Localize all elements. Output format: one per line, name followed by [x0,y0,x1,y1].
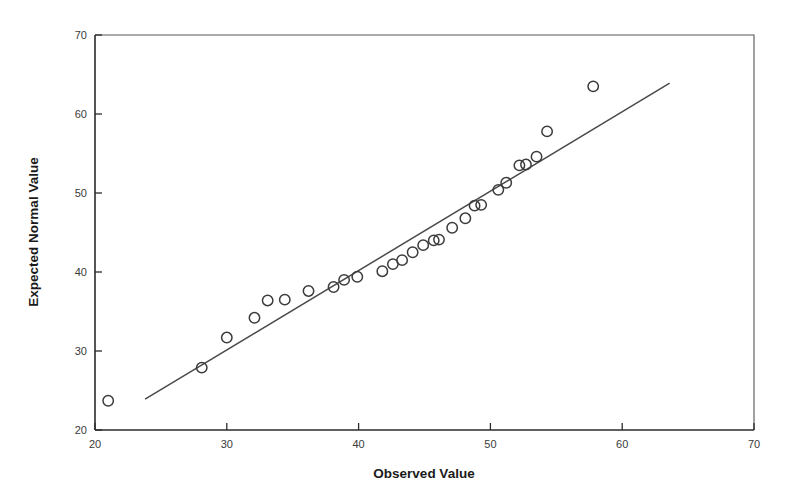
scatter-point [103,396,113,406]
axes [95,35,754,430]
x-tick-label: 60 [616,438,628,450]
x-axis-ticks: 203040506070 [89,423,760,450]
y-tick-label: 40 [75,266,87,278]
x-tick-label: 70 [748,438,760,450]
x-tick-label: 40 [352,438,364,450]
x-axis-title: Observed Value [373,466,475,481]
scatter-point [280,294,290,304]
qq-plot-figure: 203040506070 203040506070 Observed Value… [0,0,801,500]
y-tick-label: 60 [75,108,87,120]
scatter-point [418,240,428,250]
y-axis-title: Expected Normal Value [26,157,41,307]
x-tick-label: 50 [484,438,496,450]
scatter-point [501,178,511,188]
x-tick-label: 20 [89,438,101,450]
scatter-point [476,200,486,210]
plot-frame [95,35,754,430]
plot-frame-border [95,35,754,430]
scatter-point [377,266,387,276]
y-tick-label: 70 [75,29,87,41]
scatter-point [542,126,552,136]
scatter-point [262,295,272,305]
qq-plot-canvas: 203040506070 203040506070 Observed Value… [0,0,801,500]
y-tick-label: 20 [75,424,87,436]
scatter-point [588,81,598,91]
y-axis-ticks: 203040506070 [75,29,102,436]
scatter-points [103,81,598,406]
x-tick-label: 30 [221,438,233,450]
y-tick-label: 30 [75,345,87,357]
reference-line-path [145,83,670,399]
reference-line [145,83,670,399]
scatter-point [397,255,407,265]
scatter-point [407,247,417,257]
scatter-point [352,272,362,282]
y-tick-label: 50 [75,187,87,199]
scatter-point [249,313,259,323]
scatter-point [521,159,531,169]
scatter-point [222,332,232,342]
scatter-point [447,223,457,233]
scatter-point [460,213,470,223]
scatter-point [303,286,313,296]
scatter-point [531,151,541,161]
